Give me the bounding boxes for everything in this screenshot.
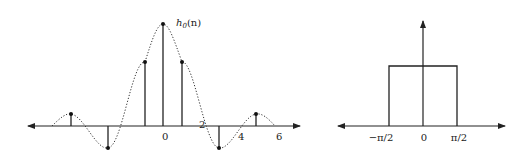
tick-label-minus-pi-over-2: −π/2 (369, 132, 394, 143)
stem-n-minus-5 (69, 112, 73, 126)
stem-n-3 (217, 126, 221, 150)
impulse-response-plot: h0(n) 0 2 4 6 (28, 17, 300, 150)
frequency-response-plot: −π/2 0 π/2 (338, 21, 505, 143)
tick-label-pi-over-2: π/2 (451, 132, 467, 143)
tick-label-6: 6 (276, 131, 282, 142)
tick-label-zero: 0 (421, 132, 427, 143)
stem-n-minus-3 (106, 126, 110, 150)
stem-n-minus-1 (143, 60, 147, 126)
tick-label-2: 2 (199, 119, 205, 130)
stem-n-1 (180, 60, 184, 126)
tick-label-0: 0 (162, 131, 168, 142)
tick-label-4: 4 (238, 131, 244, 142)
stem-n-0 (161, 22, 165, 126)
stem-n-5 (254, 112, 258, 126)
figure: h0(n) 0 2 4 6 −π/2 0 π/2 (0, 0, 525, 161)
plot-title: h0(n) (176, 17, 201, 30)
